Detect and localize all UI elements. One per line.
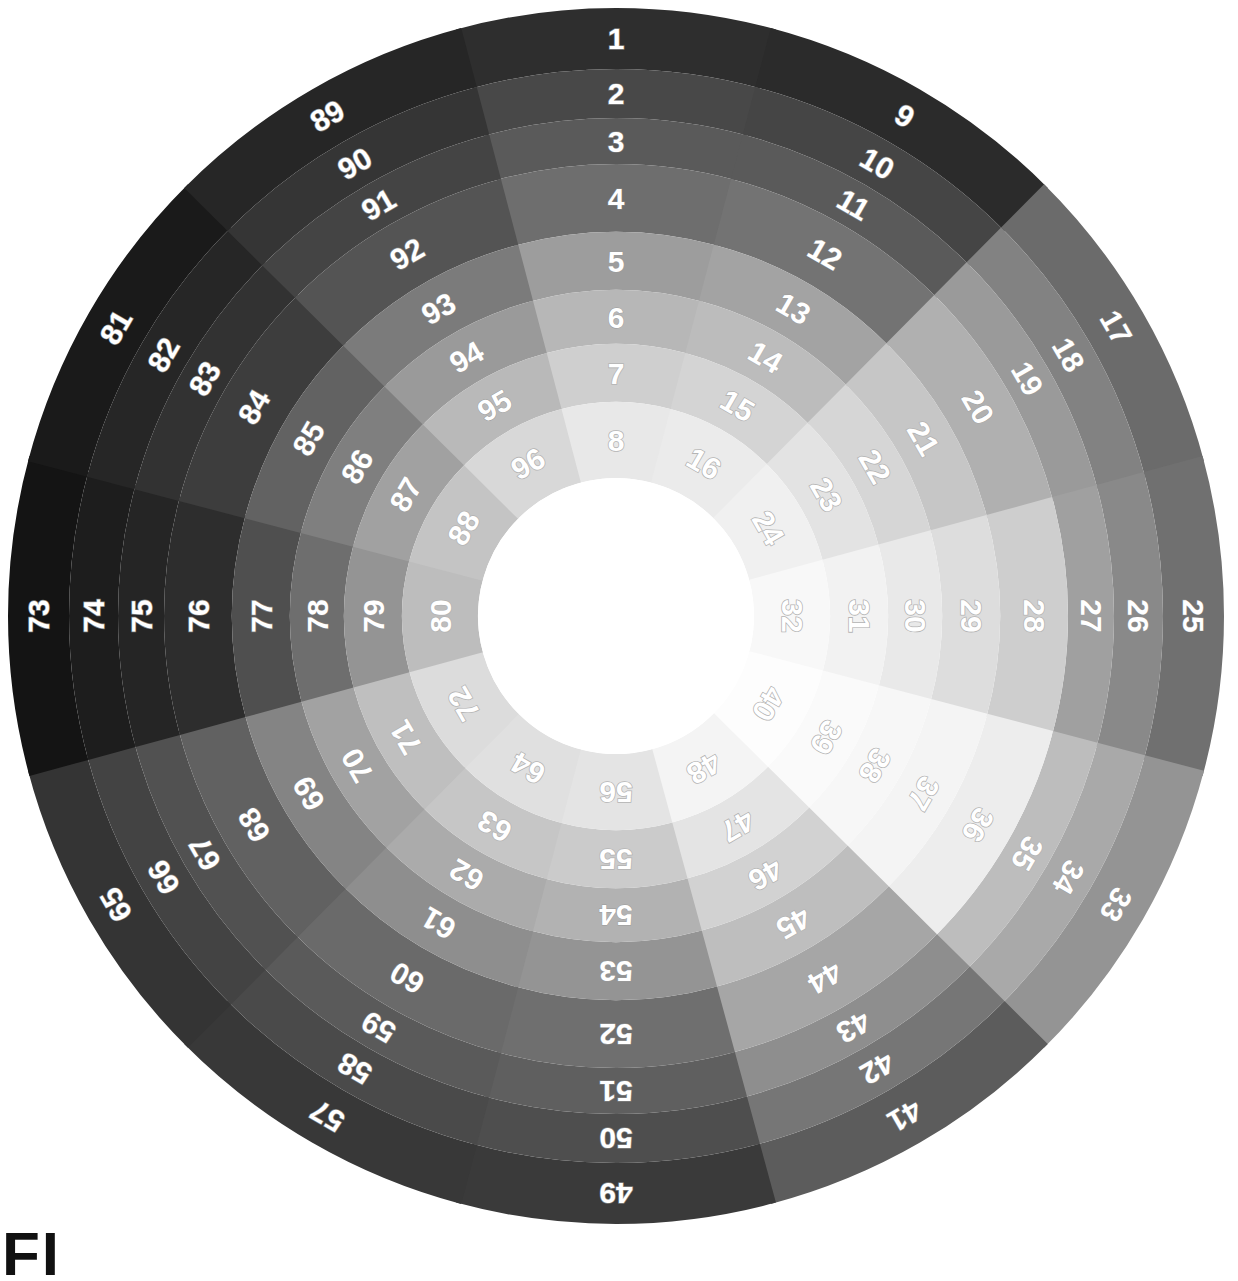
patch-number-label: 5 <box>608 245 625 278</box>
patch-number-label: 30 <box>899 599 932 632</box>
corner-logo-mark: FI <box>2 1223 61 1281</box>
patch-number-label: 2 <box>608 77 625 110</box>
patch-number-label: 1 <box>608 22 625 55</box>
color-wheel-svg: 1234567891011121314151617181920212223242… <box>0 0 1238 1281</box>
patch-number-label: 49 <box>599 1177 632 1210</box>
patch-number-label: 53 <box>599 955 632 988</box>
patch-number-label: 75 <box>125 599 158 632</box>
patch-number-label: 56 <box>599 776 632 809</box>
patch-number-label: 7 <box>608 357 625 390</box>
patch-number-label: 25 <box>1177 599 1210 632</box>
center-hub <box>478 478 754 754</box>
patch-number-label: 51 <box>599 1075 632 1108</box>
patch-number-label: 73 <box>22 599 55 632</box>
patch-number-label: 55 <box>599 843 632 876</box>
patch-number-label: 29 <box>955 599 988 632</box>
patch-number-label: 78 <box>301 599 334 632</box>
patch-number-label: 8 <box>608 424 625 457</box>
patch-number-label: 74 <box>77 599 110 633</box>
patch-number-label: 6 <box>608 301 625 334</box>
patch-number-label: 50 <box>599 1122 632 1155</box>
patch-number-label: 77 <box>245 599 278 632</box>
patch-number-label: 26 <box>1122 599 1155 632</box>
patch-number-label: 52 <box>599 1018 632 1051</box>
patch-number-label: 3 <box>608 125 625 158</box>
patch-number-label: 27 <box>1075 599 1108 632</box>
patch-number-label: 31 <box>843 599 876 632</box>
patch-number-label: 54 <box>599 899 633 932</box>
patch-number-label: 80 <box>424 599 457 632</box>
patch-number-label: 79 <box>357 599 390 632</box>
color-wheel-figure: 1234567891011121314151617181920212223242… <box>0 0 1238 1281</box>
patch-number-label: 4 <box>608 182 625 215</box>
patch-number-label: 28 <box>1018 599 1051 632</box>
patch-number-label: 76 <box>182 599 215 632</box>
patch-number-label: 32 <box>776 599 809 632</box>
